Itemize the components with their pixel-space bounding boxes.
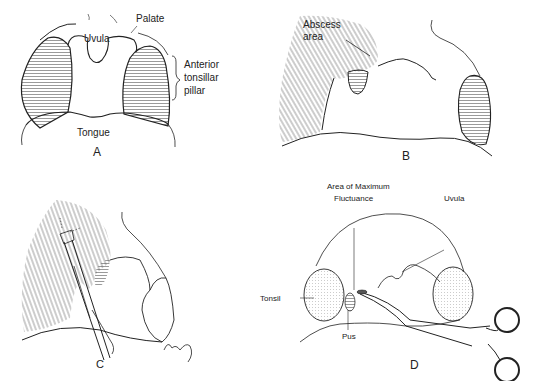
label-pillar: pillar (184, 85, 205, 96)
label-pus: Pus (342, 332, 356, 341)
label-fluctuance: Fluctuance (334, 194, 373, 203)
panel-letter-a: A (93, 145, 101, 159)
panel-a: Palate Uvula Anterior tonsillar pillar T… (0, 0, 265, 185)
panel-a-drawing (0, 0, 265, 185)
panel-c-drawing (0, 190, 260, 381)
label-uvula: Uvula (84, 33, 110, 44)
label-anterior: Anterior (184, 59, 219, 70)
label-tongue: Tongue (77, 127, 110, 138)
panel-c: C K. Tang (0, 190, 260, 381)
panel-b-drawing (260, 0, 533, 190)
label-tonsil: Tonsil (260, 294, 280, 303)
label-palate: Palate (136, 13, 164, 24)
label-uvula-d: Uvula (444, 194, 464, 203)
label-area-of-maximum: Area of Maximum (327, 182, 390, 191)
panel-d-drawing (260, 180, 533, 381)
panel-d: Area of Maximum Fluctuance Uvula Tonsil … (260, 180, 533, 381)
panel-letter-b: B (402, 149, 410, 163)
panel-letter-c: C (96, 358, 104, 370)
artist-signature: K. Tang (166, 344, 190, 351)
panel-b: Abscess area B (260, 0, 533, 190)
panel-letter-d: D (410, 358, 419, 372)
label-tonsillar: tonsillar (184, 72, 218, 83)
label-area: area (303, 31, 323, 42)
label-abscess: Abscess (303, 19, 341, 30)
